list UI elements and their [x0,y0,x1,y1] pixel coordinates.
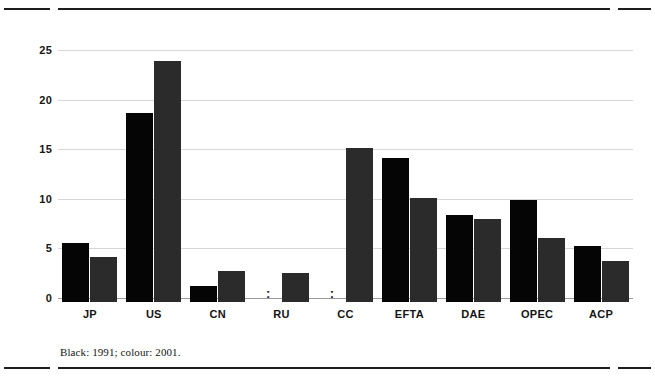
x-axis-tick-label-acp: ACP [564,308,638,320]
x-axis-tick-label-opec: OPEC [500,308,574,320]
rule-bottom [0,367,655,370]
x-axis-labels: JPUSCNRUCCEFTADAEOPECACP [58,0,633,330]
y-axis-tick-label: 20 [18,95,52,106]
chart-footnote: Black: 1991; colour: 2001. [60,346,181,358]
x-axis-tick-label-cn: CN [181,308,255,320]
y-axis-tick-label: 5 [18,243,52,254]
y-axis-tick-label: 0 [18,293,52,304]
rule-top-left-segment [4,8,50,10]
rule-bottom-right-segment [618,367,651,369]
x-axis-tick-label-us: US [117,308,191,320]
x-axis-tick-label-efta: EFTA [372,308,446,320]
rule-bottom-left-segment [4,367,50,369]
y-axis-tick-label: 10 [18,194,52,205]
x-axis-tick-label-dae: DAE [436,308,510,320]
x-axis-tick-label-ru: RU [245,308,319,320]
rule-bottom-main-segment [58,367,610,369]
y-axis-tick-label: 25 [18,45,52,56]
y-axis-labels: 0510152025 [12,40,52,302]
figure-container: 0510152025 :: JPUSCNRUCCEFTADAEOPECACP B… [0,0,655,379]
y-axis-tick-label: 15 [18,144,52,155]
